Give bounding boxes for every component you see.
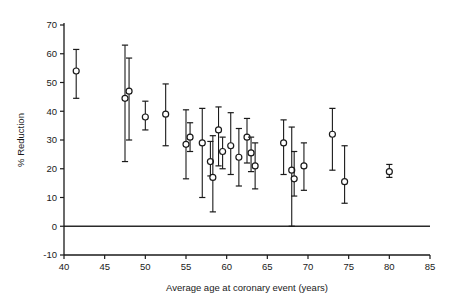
x-tick-label: 45 bbox=[99, 261, 110, 272]
data-marker bbox=[301, 163, 307, 169]
x-tick-label: 40 bbox=[59, 261, 70, 272]
data-marker bbox=[342, 179, 348, 185]
data-marker bbox=[228, 143, 234, 149]
y-tick-label: 20 bbox=[46, 163, 57, 174]
y-tick-label: -10 bbox=[43, 249, 57, 260]
x-axis-title: Average age at coronary event (years) bbox=[166, 282, 328, 293]
data-marker bbox=[220, 149, 226, 155]
y-tick-label: 60 bbox=[46, 48, 57, 59]
data-marker bbox=[187, 134, 193, 140]
x-tick-label: 55 bbox=[181, 261, 192, 272]
data-marker bbox=[126, 88, 132, 94]
x-tick-label: 50 bbox=[140, 261, 151, 272]
scatter-plot-canvas: -1001020304050607040455055606570758085Av… bbox=[0, 0, 450, 307]
x-tick-label: 70 bbox=[303, 261, 314, 272]
x-tick-label: 80 bbox=[384, 261, 395, 272]
data-marker bbox=[142, 114, 148, 120]
data-marker bbox=[210, 174, 216, 180]
data-marker bbox=[122, 95, 128, 101]
data-marker bbox=[236, 154, 242, 160]
data-marker bbox=[252, 163, 258, 169]
data-marker bbox=[183, 141, 189, 147]
x-tick-label: 60 bbox=[221, 261, 232, 272]
data-marker bbox=[386, 169, 392, 175]
data-marker bbox=[199, 140, 205, 146]
data-marker bbox=[248, 150, 254, 156]
data-marker bbox=[329, 131, 335, 137]
y-axis-title: % Reduction bbox=[15, 113, 26, 167]
y-tick-label: 70 bbox=[46, 19, 57, 30]
y-tick-label: 30 bbox=[46, 134, 57, 145]
chart-figure: -1001020304050607040455055606570758085Av… bbox=[0, 0, 450, 307]
y-tick-label: 40 bbox=[46, 106, 57, 117]
y-tick-label: 50 bbox=[46, 77, 57, 88]
x-tick-label: 85 bbox=[425, 261, 436, 272]
data-marker bbox=[163, 111, 169, 117]
data-marker bbox=[281, 140, 287, 146]
x-tick-label: 65 bbox=[262, 261, 273, 272]
data-marker bbox=[73, 68, 79, 74]
y-tick-label: 0 bbox=[52, 221, 57, 232]
data-marker bbox=[216, 127, 222, 133]
y-tick-label: 10 bbox=[46, 192, 57, 203]
data-marker bbox=[291, 176, 297, 182]
x-tick-label: 75 bbox=[343, 261, 354, 272]
